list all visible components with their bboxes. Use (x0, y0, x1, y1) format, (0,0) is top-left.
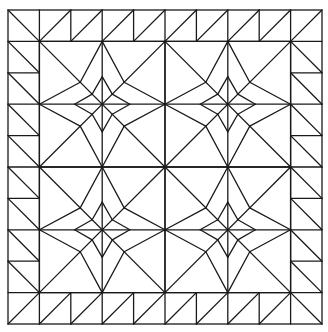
inner-star-edge (200, 220, 218, 230)
outer-star-edge (80, 167, 102, 208)
outer-star-edge (124, 230, 165, 252)
inner-star-edge (92, 240, 102, 258)
outer-star-edge (228, 126, 250, 167)
border-diagonal (228, 293, 259, 324)
inner-star-edge (218, 240, 228, 258)
inner-star-edge (102, 240, 112, 258)
border-diagonal (259, 10, 290, 41)
outer-star-edge (206, 167, 228, 208)
inner-star-edge (238, 230, 256, 240)
border-diagonal (291, 261, 322, 292)
inner-star-edge (200, 94, 218, 104)
border-diagonal (8, 261, 39, 292)
inner-star-edge (75, 104, 93, 114)
outer-star-edge (250, 208, 291, 230)
border-diagonal (71, 293, 102, 324)
star-block-top-left (39, 41, 165, 167)
border-diagonal (291, 167, 322, 198)
outer-star-edge (102, 252, 124, 293)
border-diagonal (71, 10, 102, 41)
border-diagonal (134, 293, 165, 324)
inner-star-edge (112, 230, 130, 240)
outer-star-edge (102, 41, 124, 82)
border-diagonal (291, 10, 322, 41)
border-diagonal (39, 293, 70, 324)
outer-star-edge (124, 208, 165, 230)
inner-star-edge (92, 77, 102, 95)
border-diagonal (8, 293, 39, 324)
border-diagonal (291, 230, 322, 261)
outer-star-edge (165, 208, 206, 230)
border-diagonal (291, 136, 322, 167)
star-block-bottom-left (39, 167, 165, 293)
inner-star-edge (228, 240, 238, 258)
border-diagonal (39, 10, 70, 41)
border-diagonal (8, 167, 39, 198)
inner-star-edge (238, 104, 256, 114)
inner-star-edge (92, 202, 102, 220)
outer-star-edge (165, 230, 206, 252)
outer-star-edge (206, 126, 228, 167)
inner-star-edge (238, 94, 256, 104)
border-diagonal (8, 136, 39, 167)
border-diagonal (8, 198, 39, 229)
border-diagonal (291, 198, 322, 229)
quilt-diagram (0, 0, 328, 332)
outer-star-edge (228, 167, 250, 208)
star-blocks (39, 41, 290, 292)
border-diagonal (8, 230, 39, 261)
outer-star-edge (124, 104, 165, 126)
outer-star-edge (39, 104, 80, 126)
outer-star-edge (80, 252, 102, 293)
inner-star-edge (228, 77, 238, 95)
border-diagonal (8, 73, 39, 104)
inner-star-edge (112, 220, 130, 230)
inner-star-edge (218, 114, 228, 132)
border-diagonal (291, 293, 322, 324)
inner-star-edge (75, 230, 93, 240)
inner-star-edge (228, 202, 238, 220)
outer-star-edge (250, 230, 291, 252)
inner-star-edge (112, 94, 130, 104)
border-diagonal (259, 293, 290, 324)
inner-star-edge (102, 77, 112, 95)
border-diagonal (291, 73, 322, 104)
inner-star-edge (102, 114, 112, 132)
border-diagonal (102, 10, 133, 41)
border-diagonal (134, 10, 165, 41)
outer-star-edge (250, 82, 291, 104)
outer-star-edge (206, 41, 228, 82)
star-block-bottom-right (165, 167, 291, 293)
outer-star-edge (165, 104, 206, 126)
border-diagonal (228, 10, 259, 41)
inner-star-edge (75, 94, 93, 104)
border-diagonal (8, 104, 39, 135)
inner-star-edge (238, 220, 256, 230)
inner-star-edge (218, 77, 228, 95)
inner-star-edge (75, 220, 93, 230)
star-block-top-right (165, 41, 291, 167)
border-diagonal (165, 10, 196, 41)
border-diagonal (165, 293, 196, 324)
border-diagonal (196, 10, 227, 41)
inner-star-edge (200, 104, 218, 114)
outer-star-edge (39, 82, 80, 104)
inner-star-edge (228, 114, 238, 132)
border-diagonal (102, 293, 133, 324)
inner-star-edge (200, 230, 218, 240)
outer-star-edge (80, 41, 102, 82)
border-diagonal (8, 41, 39, 72)
outer-star-edge (102, 126, 124, 167)
outer-star-edge (165, 82, 206, 104)
inner-star-edge (112, 104, 130, 114)
border-diagonal (291, 41, 322, 72)
inner-star-edge (102, 202, 112, 220)
inner-star-edge (92, 114, 102, 132)
border-diagonal (8, 10, 39, 41)
outer-star-edge (124, 82, 165, 104)
outer-star-edge (228, 41, 250, 82)
border-diagonal (291, 104, 322, 135)
outer-star-edge (250, 104, 291, 126)
outer-star-edge (39, 208, 80, 230)
outer-star-edge (80, 126, 102, 167)
